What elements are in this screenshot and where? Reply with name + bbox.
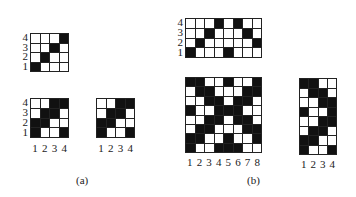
grid-a-bottom-left: [30, 98, 69, 138]
grid-cell: [253, 29, 262, 38]
grid-cell: [97, 109, 106, 118]
col-label: 1: [299, 159, 309, 170]
grid-cell: [60, 128, 69, 137]
grid-cell: [224, 29, 233, 38]
grid-cell: [224, 48, 233, 57]
grid-cell: [215, 116, 224, 124]
grid-cell: [196, 97, 205, 105]
grid-cell: [253, 87, 262, 95]
grid-cell: [126, 99, 135, 108]
grid-cell: [215, 48, 224, 57]
grid-cell: [253, 78, 262, 86]
grid-cell: [205, 116, 214, 124]
grid-cell: [215, 144, 224, 152]
grid-cell: [60, 119, 69, 128]
grid-cell: [234, 106, 243, 114]
grid-cell: [205, 97, 214, 105]
grid-cell: [253, 116, 262, 124]
grid-cell: [234, 125, 243, 133]
row-labels-b-top: 4321: [173, 18, 183, 58]
grid-b-top: [185, 18, 262, 58]
grid-cell: [41, 53, 50, 62]
grid-cell: [196, 29, 205, 38]
grid-cell: [196, 106, 205, 114]
col-label: 4: [59, 143, 69, 154]
grid-cell: [196, 87, 205, 95]
grid-cell: [253, 144, 262, 152]
grid-cell: [243, 87, 252, 95]
grid-cell: [300, 136, 308, 145]
grid-cell: [309, 117, 317, 126]
grid-a-bottom-right: [96, 98, 135, 138]
grid-cell: [50, 119, 59, 128]
grid-cell: [243, 97, 252, 105]
grid-cell: [196, 78, 205, 86]
col-label: 2: [194, 157, 204, 168]
grid-cell: [41, 119, 50, 128]
grid-cell: [41, 44, 50, 53]
grid-cell: [224, 144, 233, 152]
grid-cell: [243, 134, 252, 142]
grid-cell: [328, 117, 336, 126]
grid-cell: [253, 48, 262, 57]
grid-cell: [31, 99, 40, 108]
grid-cell: [309, 136, 317, 145]
grid-cell: [300, 117, 308, 126]
grid-cell: [186, 78, 195, 86]
grid-cell: [253, 134, 262, 142]
grid-cell: [31, 44, 40, 53]
grid-cell: [205, 29, 214, 38]
grid-cell: [41, 99, 50, 108]
grid-cell: [196, 134, 205, 142]
grid-cell: [319, 98, 327, 107]
grid-cell: [253, 106, 262, 114]
grid-cell: [107, 119, 116, 128]
col-label: 2: [40, 143, 50, 154]
grid-cell: [243, 116, 252, 124]
col-label: 7: [243, 157, 253, 168]
col-label: 3: [318, 159, 328, 170]
grid-cell: [31, 63, 40, 72]
grid-cell: [243, 39, 252, 48]
grid-cell: [234, 78, 243, 86]
grid-cell: [60, 53, 69, 62]
grid-cell: [186, 106, 195, 114]
grid-cell: [224, 125, 233, 133]
grid-cell: [215, 97, 224, 105]
grid-a-top: [30, 33, 69, 72]
grid-cell: [309, 79, 317, 88]
row-label: 1: [178, 47, 184, 58]
grid-cell: [41, 109, 50, 118]
col-label: 2: [106, 143, 116, 154]
grid-cell: [196, 48, 205, 57]
grid-cell: [50, 99, 59, 108]
grid-cell: [234, 29, 243, 38]
col-label: 5: [223, 157, 233, 168]
grid-cell: [328, 146, 336, 155]
grid-cell: [224, 116, 233, 124]
grid-cell: [50, 53, 59, 62]
grid-cell: [224, 106, 233, 114]
grid-cell: [300, 79, 308, 88]
grid-cell: [328, 108, 336, 117]
grid-cell: [50, 34, 59, 43]
grid-cell: [319, 108, 327, 117]
grid-cell: [107, 128, 116, 137]
grid-cell: [243, 29, 252, 38]
grid-cell: [97, 99, 106, 108]
grid-cell: [243, 125, 252, 133]
grid-cell: [319, 146, 327, 155]
grid-cell: [309, 108, 317, 117]
grid-cell: [60, 34, 69, 43]
col-label: 4: [214, 157, 224, 168]
grid-cell: [116, 109, 125, 118]
grid-cell: [215, 19, 224, 28]
grid-cell: [243, 19, 252, 28]
grid-cell: [243, 144, 252, 152]
grid-cell: [186, 19, 195, 28]
grid-cell: [31, 53, 40, 62]
grid-cell: [224, 134, 233, 142]
grid-cell: [300, 108, 308, 117]
grid-cell: [215, 125, 224, 133]
col-label: 3: [115, 143, 125, 154]
